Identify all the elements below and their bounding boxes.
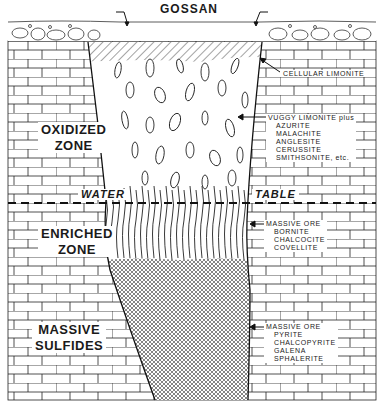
massive-minerals-header: MASSIVE ORE: [266, 323, 336, 331]
surface-rubble: [8, 21, 376, 41]
water-label: WATER: [78, 189, 128, 200]
enriched-minerals-list: MASSIVE ORE BORNITE CHALCOCITE COVELLITE: [264, 220, 327, 252]
massive-sulfides-line1: MASSIVE: [35, 323, 103, 336]
oxidized-minerals-list: VUGGY LIMONITE plus AZURITE MALACHITE AN…: [266, 114, 356, 162]
mineral-item: BORNITE: [274, 228, 325, 236]
enriched-minerals-header: MASSIVE ORE: [266, 220, 325, 228]
mineral-item: SMITHSONITE, etc.: [276, 154, 354, 162]
massive-minerals-list: MASSIVE ORE PYRITE CHALCOPYRITE GALENA S…: [264, 323, 338, 363]
mineral-item: SPHALERITE: [274, 355, 336, 363]
mineral-item: PYRITE: [274, 331, 336, 339]
massive-sulfides-line2: SULFIDES: [35, 339, 103, 352]
mineral-item: ANGLESITE: [276, 138, 354, 146]
mineral-item: AZURITE: [276, 122, 354, 130]
mineral-item: COVELLITE: [274, 244, 325, 252]
cellular-limonite-label: CELLULAR LIMONITE: [281, 70, 366, 77]
table-label: TABLE: [252, 189, 299, 200]
mineral-item: CERUSSITE: [276, 146, 354, 154]
enriched-zone-line2: ZONE: [41, 243, 113, 256]
oxidized-zone-line1: OXIDIZED: [41, 123, 106, 136]
enriched-zone-line1: ENRICHED: [41, 227, 113, 240]
enriched-zone-label: ENRICHED ZONE: [38, 226, 116, 257]
oxidized-zone-label: OXIDIZED ZONE: [38, 122, 109, 153]
massive-sulfides-label: MASSIVE SULFIDES: [32, 322, 106, 353]
oxidized-minerals-header: VUGGY LIMONITE plus: [268, 114, 354, 122]
gossan-label: GOSSAN: [160, 3, 218, 15]
mineral-item: GALENA: [274, 347, 336, 355]
mineral-item: MALACHITE: [276, 130, 354, 138]
mineral-item: CHALCOPYRITE: [274, 339, 336, 347]
oxidized-zone-line2: ZONE: [41, 139, 106, 152]
mineral-item: CHALCOCITE: [274, 236, 325, 244]
